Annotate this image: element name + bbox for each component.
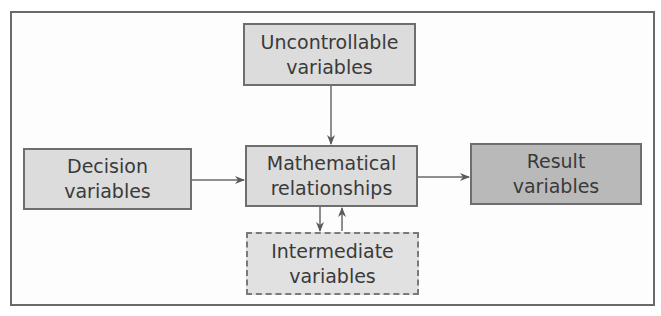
arrows-layer	[0, 0, 661, 316]
